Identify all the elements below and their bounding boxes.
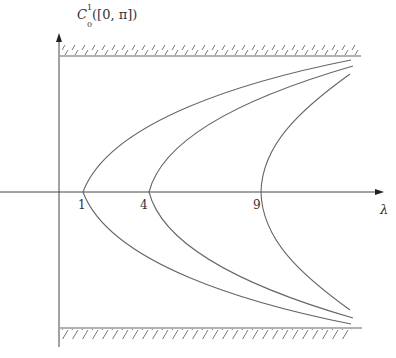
diagram-canvas [0, 0, 396, 358]
y-axis [56, 33, 62, 347]
tick-label-1: 1 [78, 198, 86, 212]
tick-label-4: 4 [140, 198, 148, 212]
bifurcation-diagram: C10([0, π]) 1 4 9 λ [0, 0, 396, 358]
bottom-boundary [60, 328, 362, 339]
x-axis-label: λ [380, 202, 388, 217]
x-axis [0, 189, 384, 195]
top-boundary [60, 45, 361, 56]
tick-label-9: 9 [253, 198, 261, 212]
y-axis-label: C10([0, π]) [77, 7, 137, 25]
